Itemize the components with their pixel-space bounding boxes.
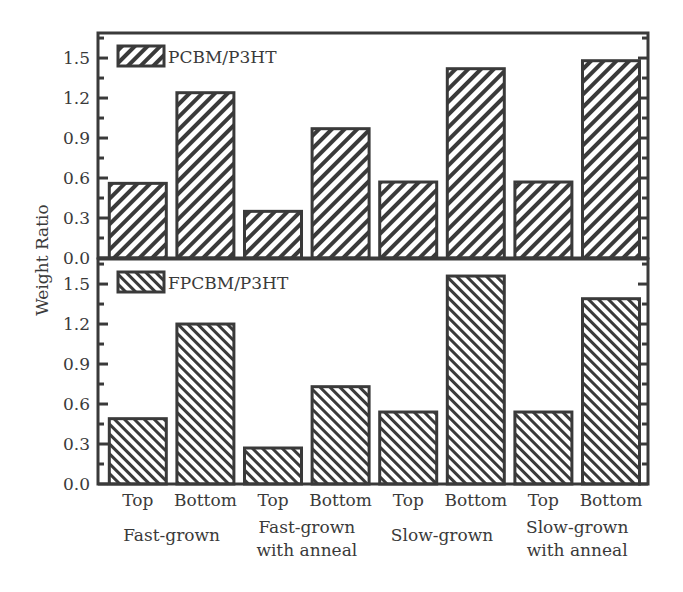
x-group-label: Fast-grown: [123, 525, 220, 545]
bar-top-7: [583, 61, 640, 258]
x-category-label: Bottom: [580, 490, 643, 510]
y-tick-label-bottom: 0.9: [63, 354, 90, 374]
bar-bottom-0: [109, 419, 166, 484]
weight-ratio-chart: 0.00.30.60.91.21.5PCBM/P3HT0.00.30.60.91…: [0, 0, 683, 592]
y-tick-label-bottom: 0.6: [63, 394, 90, 414]
bar-top-4: [380, 182, 437, 258]
bar-bottom-7: [583, 299, 640, 484]
chart-panels: 0.00.30.60.91.21.5PCBM/P3HT0.00.30.60.91…: [63, 33, 648, 494]
x-group-label: Slow-grown: [391, 525, 493, 545]
x-axis-labels: TopBottomTopBottomTopBottomTopBottomFast…: [122, 490, 642, 560]
x-group-label: with anneal: [256, 540, 357, 560]
bar-bottom-6: [515, 412, 572, 484]
bar-bottom-2: [245, 448, 302, 484]
bar-bottom-1: [177, 324, 234, 484]
x-category-label: Bottom: [174, 490, 237, 510]
y-tick-label-top: 0.0: [63, 248, 90, 268]
x-group-label: Slow-grown: [526, 517, 628, 537]
y-tick-label-top: 0.9: [63, 128, 90, 148]
panel-bottom: 0.00.30.60.91.21.5FPCBM/P3HT: [63, 259, 648, 494]
panel-top: 0.00.30.60.91.21.5PCBM/P3HT: [63, 33, 648, 268]
x-category-label: Top: [393, 490, 424, 510]
bar-top-2: [245, 211, 302, 258]
bar-top-0: [109, 183, 166, 258]
y-tick-label-top: 0.6: [63, 168, 90, 188]
y-tick-label-bottom: 0.0: [63, 474, 90, 494]
y-tick-label-top: 1.5: [63, 48, 90, 68]
bar-bottom-3: [312, 387, 369, 484]
bar-top-5: [447, 69, 504, 258]
x-category-label: Top: [528, 490, 559, 510]
x-category-label: Bottom: [444, 490, 507, 510]
bar-top-6: [515, 182, 572, 258]
x-group-label: with anneal: [527, 540, 628, 560]
legend-label-top: PCBM/P3HT: [168, 47, 277, 67]
bar-top-1: [177, 93, 234, 258]
y-tick-label-bottom: 1.2: [63, 314, 90, 334]
bar-top-3: [312, 129, 369, 258]
x-group-label: Fast-grown: [258, 517, 355, 537]
bar-bottom-5: [447, 276, 504, 484]
legend-label-bottom: FPCBM/P3HT: [168, 273, 289, 293]
x-category-label: Top: [122, 490, 153, 510]
legend-swatch-top: [118, 46, 164, 66]
y-tick-label-bottom: 0.3: [63, 434, 90, 454]
x-category-label: Top: [257, 490, 288, 510]
legend-swatch-bottom: [118, 272, 164, 292]
x-category-label: Bottom: [309, 490, 372, 510]
bar-bottom-4: [380, 412, 437, 484]
y-tick-label-bottom: 1.5: [63, 274, 90, 294]
y-tick-label-top: 1.2: [63, 88, 90, 108]
y-axis-title: Weight Ratio: [32, 204, 52, 315]
y-tick-label-top: 0.3: [63, 208, 90, 228]
